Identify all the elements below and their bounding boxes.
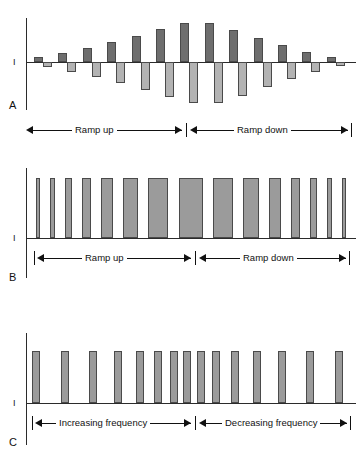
panel-a-bar-positive bbox=[205, 23, 214, 62]
panel-c-bar bbox=[335, 351, 343, 403]
panel-c-annot-label-2: Decreasing frequency bbox=[222, 416, 320, 429]
panel-a-bar-negative bbox=[238, 62, 247, 96]
annot-start-tick bbox=[34, 251, 35, 265]
panel-b-bars bbox=[26, 178, 356, 238]
pulse-parameter-figure: I A Ramp up Ramp down I B Ramp up bbox=[0, 0, 364, 466]
panel-c-bar bbox=[253, 351, 261, 403]
panel-b-bar bbox=[82, 178, 91, 238]
panel-a-bar-positive bbox=[34, 57, 43, 62]
panel-a-bar-negative bbox=[43, 62, 52, 67]
panel-b-bar bbox=[36, 178, 40, 238]
panel-b-bar bbox=[213, 178, 233, 238]
panel-a-letter: A bbox=[9, 100, 16, 111]
annot-end-tick bbox=[350, 416, 351, 430]
panel-b-bar bbox=[179, 178, 203, 238]
panel-c-bar bbox=[114, 351, 122, 403]
panel-a-bar-negative bbox=[141, 62, 150, 90]
panel-a-current-label: I bbox=[13, 58, 16, 67]
panel-b-annotations: Ramp up Ramp down bbox=[26, 250, 356, 266]
panel-c-baseline bbox=[26, 403, 356, 404]
annot-start-tick bbox=[32, 416, 33, 430]
panel-c-bar bbox=[136, 351, 144, 403]
panel-b-annot-label-1: Ramp up bbox=[82, 251, 127, 264]
panel-c-bar bbox=[278, 351, 286, 403]
panel-b-bar bbox=[342, 178, 346, 238]
panel-c-bar bbox=[306, 351, 314, 403]
panel-a-bars bbox=[26, 18, 356, 110]
panel-a-bar-negative bbox=[287, 62, 296, 79]
panel-a-bar-positive bbox=[254, 38, 263, 62]
arrow-right-icon bbox=[339, 254, 346, 262]
panel-a-bar-positive bbox=[229, 30, 238, 62]
panel-a-bar-negative bbox=[116, 62, 125, 83]
annot-end-tick bbox=[349, 251, 350, 265]
panel-a-bar-negative bbox=[311, 62, 320, 72]
panel-a-annotations: Ramp up Ramp down bbox=[26, 122, 356, 138]
panel-c-annotations: Increasing frequency Decreasing frequenc… bbox=[26, 415, 356, 431]
panel-a-bar-negative bbox=[263, 62, 272, 87]
panel-b-bar bbox=[50, 178, 55, 238]
panel-a-bar-negative bbox=[214, 62, 223, 103]
panel-c-bar bbox=[183, 351, 191, 403]
panel-c-bars bbox=[26, 351, 356, 403]
panel-c-bar bbox=[170, 351, 178, 403]
panel-c: I C Increasing frequency Decreasing freq… bbox=[0, 325, 364, 466]
panel-c-bar bbox=[212, 351, 220, 403]
arrow-right-icon bbox=[341, 126, 348, 134]
panel-b-current-label: I bbox=[13, 234, 16, 243]
panel-b-bar bbox=[101, 178, 113, 238]
panel-c-bar bbox=[231, 351, 239, 403]
panel-c-current-label: I bbox=[13, 399, 16, 408]
arrow-right-icon bbox=[184, 419, 191, 427]
panel-a-annot-label-1: Ramp up bbox=[72, 123, 117, 136]
panel-a-bar-negative bbox=[92, 62, 101, 77]
annot-divider-tick bbox=[195, 251, 196, 265]
panel-a-bar-negative bbox=[189, 62, 198, 103]
panel-b-bar bbox=[243, 178, 259, 238]
panel-a-bar-positive bbox=[83, 48, 92, 62]
panel-a-bar-negative bbox=[67, 62, 76, 72]
panel-b-bar bbox=[310, 178, 317, 238]
panel-b-bar bbox=[291, 178, 300, 238]
panel-b-letter: B bbox=[9, 272, 16, 283]
arrow-right-icon bbox=[175, 126, 182, 134]
panel-a-bar-negative bbox=[336, 62, 345, 66]
panel-c-bar bbox=[32, 351, 40, 403]
panel-c-bar bbox=[89, 351, 97, 403]
panel-b-bar bbox=[148, 178, 168, 238]
panel-a: I A Ramp up Ramp down bbox=[0, 0, 364, 150]
panel-c-bar bbox=[197, 351, 205, 403]
panel-a-bar-negative bbox=[165, 62, 174, 97]
panel-c-bar bbox=[61, 351, 69, 403]
panel-a-bar-positive bbox=[327, 57, 336, 62]
panel-a-bar-positive bbox=[107, 42, 116, 62]
arrow-right-icon bbox=[184, 254, 191, 262]
arrow-right-icon bbox=[340, 419, 347, 427]
panel-b-baseline bbox=[26, 238, 356, 239]
panel-b-annot-label-2: Ramp down bbox=[240, 251, 297, 264]
panel-b-bar bbox=[123, 178, 138, 238]
panel-a-bar-positive bbox=[302, 52, 311, 62]
annot-divider-tick bbox=[186, 123, 187, 137]
panel-a-bar-positive bbox=[278, 45, 287, 62]
panel-c-annot-label-1: Increasing frequency bbox=[56, 416, 150, 429]
annot-end-tick bbox=[351, 123, 352, 137]
panel-b-bar bbox=[269, 178, 281, 238]
panel-b-bar bbox=[327, 178, 332, 238]
panel-a-bar-positive bbox=[156, 29, 165, 62]
panel-a-bar-positive bbox=[58, 53, 67, 62]
panel-a-bar-positive bbox=[180, 23, 189, 62]
panel-c-letter: C bbox=[9, 437, 17, 448]
panel-c-bar bbox=[154, 351, 162, 403]
panel-a-bar-positive bbox=[132, 36, 141, 62]
panel-a-annot-label-2: Ramp down bbox=[234, 123, 291, 136]
annot-divider-tick bbox=[195, 416, 196, 430]
panel-b-bar bbox=[65, 178, 72, 238]
panel-b: I B Ramp up Ramp down bbox=[0, 160, 364, 300]
